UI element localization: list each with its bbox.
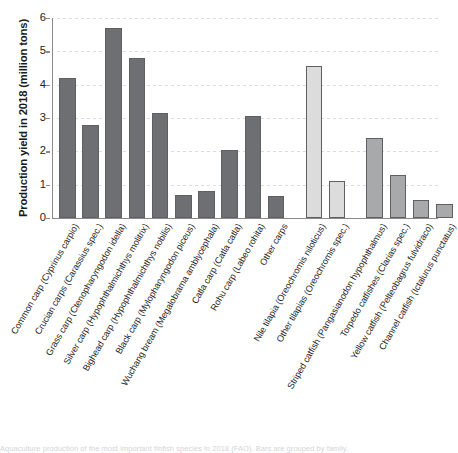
bar [329,181,346,218]
y-tick-mark [46,151,50,152]
bar [306,66,323,218]
y-tick-mark [46,218,50,219]
y-tick-mark [46,85,50,86]
bar [59,78,76,218]
y-tick-mark [46,51,50,52]
x-axis-category-labels: Common carp (Cyprinus carpio)Crucian car… [57,222,444,437]
y-tick-mark [46,118,50,119]
y-tick-label: 1 [24,178,46,190]
plot-area [57,18,438,218]
bar [366,138,383,218]
y-tick-label: 2 [24,144,46,156]
bar [245,116,262,218]
y-tick-label: 6 [24,11,46,23]
bar [175,195,192,218]
bar [413,200,430,218]
bar [105,28,122,218]
bar [152,113,169,218]
bar [221,150,238,218]
bar [129,58,146,218]
bar [82,125,99,218]
y-tick-label: 4 [24,78,46,90]
y-tick-mark [46,18,50,19]
bar [198,191,215,218]
y-axis-tick-labels: 0123456 [22,18,46,218]
y-tick-label: 3 [24,111,46,123]
y-tick-mark [46,185,50,186]
y-tick-label: 0 [24,211,46,223]
bar [268,196,285,218]
bar [436,204,453,218]
y-tick-label: 5 [24,44,46,56]
figure-caption: Aquaculture production of the most impor… [0,444,444,453]
bar [390,175,407,218]
gridline [57,18,438,19]
x-axis-baseline [52,218,438,219]
x-tick-label: Bighead carp (Hypophthalmichthys nobilis… [81,222,174,373]
x-tick-label-text: Bighead carp (Hypophthalmichthys nobilis… [81,222,174,373]
y-axis-line [52,18,53,218]
